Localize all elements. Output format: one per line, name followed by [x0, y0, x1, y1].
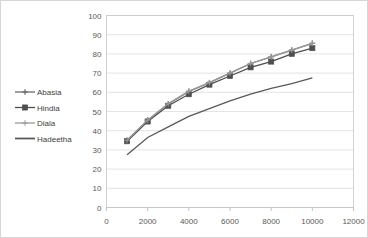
series-line-hindia	[127, 48, 312, 141]
gridlines	[107, 16, 354, 208]
y-tick-label: 50	[93, 108, 102, 117]
legend-label-diala: Diala	[37, 119, 56, 128]
legend-item-abasia[interactable]: Abasia	[15, 88, 62, 97]
series-line-diala	[127, 43, 312, 140]
legend-marker-hindia	[22, 105, 27, 110]
x-axis-tick-labels: 020004000600080001000012000	[104, 217, 365, 226]
y-axis-tick-labels: 0102030405060708090100	[88, 12, 102, 213]
x-tick-label: 4000	[180, 217, 198, 226]
series-line-abasia	[127, 43, 312, 140]
chart-figure: 0102030405060708090100 02000400060008000…	[0, 0, 368, 238]
x-tick-label: 0	[104, 217, 109, 226]
x-tick-label: 8000	[262, 217, 280, 226]
x-tick-label: 12000	[342, 217, 365, 226]
data-point-hindia-9	[310, 46, 315, 51]
series-hindia	[124, 46, 314, 144]
legend-item-hadeetha[interactable]: Hadeetha	[15, 135, 72, 144]
legend-item-hindia[interactable]: Hindia	[15, 104, 60, 113]
x-tick-label: 6000	[221, 217, 239, 226]
legend-label-hindia: Hindia	[37, 104, 60, 113]
y-tick-label: 80	[93, 50, 102, 59]
data-point-hindia-7	[269, 59, 274, 64]
y-tick-label: 60	[93, 88, 102, 97]
y-tick-label: 70	[93, 69, 102, 78]
x-tick-label: 10000	[301, 217, 324, 226]
chart-legend: AbasiaHindiaDialaHadeetha	[15, 88, 72, 144]
legend-label-hadeetha: Hadeetha	[37, 135, 72, 144]
legend-marker-abasia	[22, 89, 28, 95]
line-chart: 0102030405060708090100 02000400060008000…	[1, 1, 368, 238]
legend-label-abasia: Abasia	[37, 88, 62, 97]
series-group	[124, 41, 315, 155]
y-tick-label: 40	[93, 127, 102, 136]
y-tick-label: 0	[97, 204, 102, 213]
y-tick-label: 30	[93, 146, 102, 155]
x-tick-label: 2000	[139, 217, 157, 226]
y-tick-label: 10	[93, 184, 102, 193]
y-tick-label: 100	[88, 12, 102, 21]
legend-item-diala[interactable]: Diala	[15, 119, 56, 128]
x-axis-tick-marks	[107, 208, 354, 212]
y-tick-label: 20	[93, 165, 102, 174]
legend-marker-diala	[22, 120, 28, 126]
y-tick-label: 90	[93, 31, 102, 40]
